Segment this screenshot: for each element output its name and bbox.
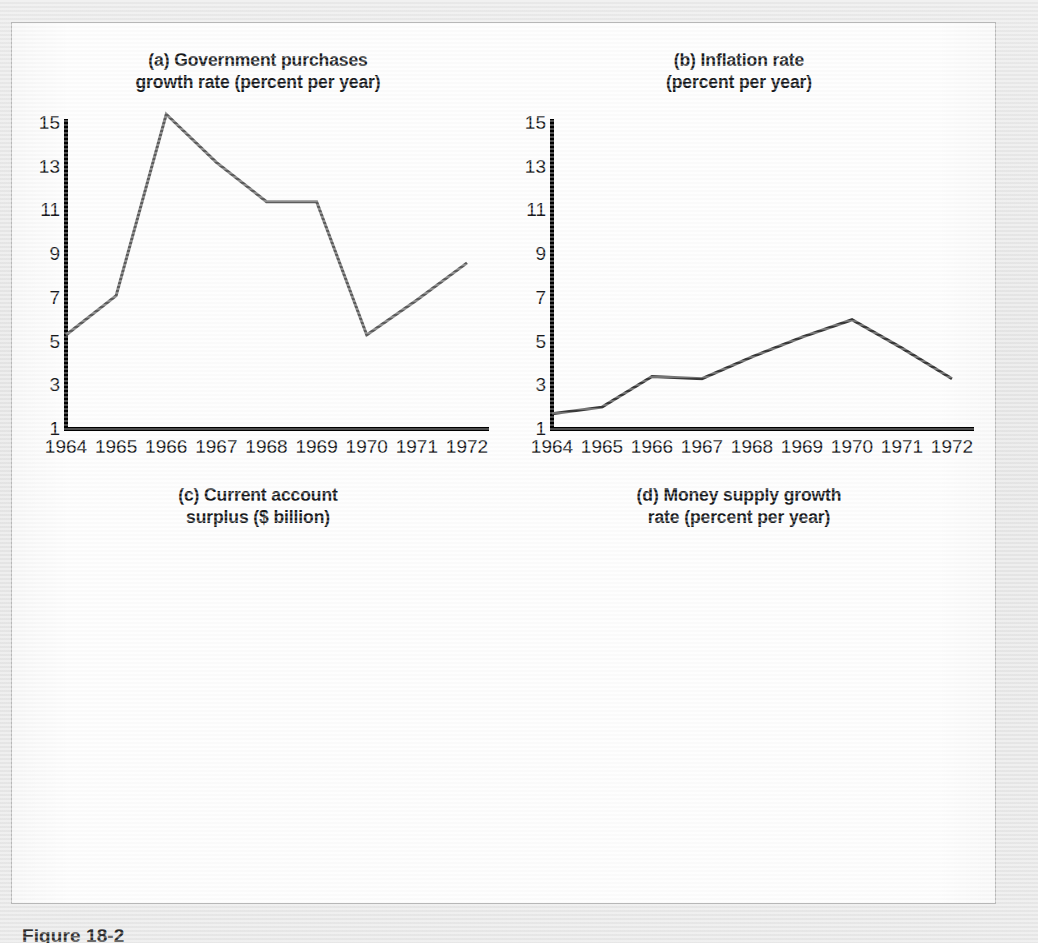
x-axis-tick-label: 1965 — [90, 437, 142, 456]
x-axis-tick-label: 1964 — [526, 437, 578, 456]
y-axis-tick-label: 11 — [506, 200, 546, 219]
y-axis-tick-label: 9 — [20, 244, 60, 263]
x-axis-tick-label: 1964 — [40, 437, 92, 456]
panel-a: (a) Government purchasesgrowth rate (per… — [12, 23, 504, 464]
x-axis-tick-label: 1969 — [776, 437, 828, 456]
scanned-page-background: (a) Government purchasesgrowth rate (per… — [0, 0, 1038, 943]
data-series-line — [552, 320, 952, 414]
panel-d-svg — [504, 464, 1038, 943]
x-axis-tick-label: 1969 — [291, 437, 343, 456]
x-axis-tick-label: 1966 — [140, 437, 192, 456]
y-axis-tick-label: 15 — [20, 113, 60, 132]
panel-b: (b) Inflation rate(percent per year) 135… — [504, 23, 997, 464]
panel-d-plot: 1357911131519641965196619671968196919701… — [504, 464, 1038, 943]
figure-caption: Figure 18-2 — [22, 925, 124, 943]
y-axis-tick-label: 5 — [20, 332, 60, 351]
y-axis-tick-label: 5 — [506, 332, 546, 351]
y-axis-tick-label: 3 — [506, 375, 546, 394]
x-axis-tick-label: 1970 — [826, 437, 878, 456]
x-axis-tick-label: 1967 — [676, 437, 728, 456]
x-axis-tick-label: 1965 — [576, 437, 628, 456]
figure-card: (a) Government purchasesgrowth rate (per… — [11, 22, 996, 904]
y-axis-tick-label: 7 — [506, 288, 546, 307]
x-axis-tick-label: 1966 — [626, 437, 678, 456]
x-axis-tick-label: 1971 — [876, 437, 928, 456]
x-axis-tick-label: 1967 — [190, 437, 242, 456]
x-axis-tick-label: 1968 — [726, 437, 778, 456]
y-axis-tick-label: 13 — [506, 157, 546, 176]
data-series-line — [66, 114, 467, 335]
y-axis-tick-label: 9 — [506, 244, 546, 263]
panel-c: (c) Current accountsurplus ($ billion) −… — [12, 464, 504, 905]
y-axis-tick-label: 3 — [20, 375, 60, 394]
x-axis-tick-label: 1971 — [391, 437, 443, 456]
y-axis-tick-label: 7 — [20, 288, 60, 307]
y-axis-tick-label: 13 — [20, 157, 60, 176]
panel-d: (d) Money supply growthrate (percent per… — [504, 464, 997, 905]
x-axis-tick-label: 1970 — [341, 437, 393, 456]
x-axis-tick-label: 1972 — [441, 437, 493, 456]
y-axis-tick-label: 11 — [20, 200, 60, 219]
y-axis-tick-label: 15 — [506, 113, 546, 132]
x-axis-tick-label: 1968 — [241, 437, 293, 456]
x-axis-tick-label: 1972 — [926, 437, 978, 456]
